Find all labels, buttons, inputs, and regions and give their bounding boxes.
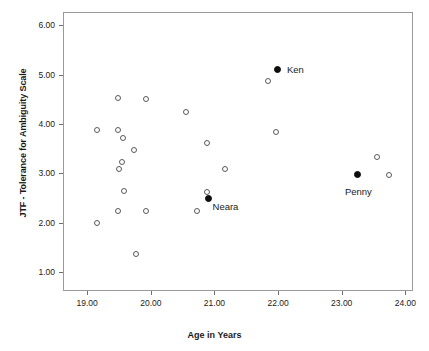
x-tick-label: 23.00 [320,298,364,308]
x-tick-mark [87,291,88,295]
x-tick-label: 19.00 [65,298,109,308]
x-tick-label: 21.00 [192,298,236,308]
x-tick-label: 22.00 [256,298,300,308]
y-tick-label: 1.00 [21,267,55,277]
x-tick-label: 20.00 [129,298,173,308]
y-axis-title: JTF - Tolerance for Ambiguity Scale [18,28,28,258]
x-tick-label: 24.00 [383,298,427,308]
x-axis-title: Age in Years [0,330,429,340]
plot-area [63,12,413,291]
x-tick-mark [405,291,406,295]
x-tick-mark [278,291,279,295]
x-tick-mark [151,291,152,295]
x-tick-mark [342,291,343,295]
scatter-plot-figure: 1.002.003.004.005.006.00 19.0020.0021.00… [0,0,429,351]
x-tick-mark [214,291,215,295]
